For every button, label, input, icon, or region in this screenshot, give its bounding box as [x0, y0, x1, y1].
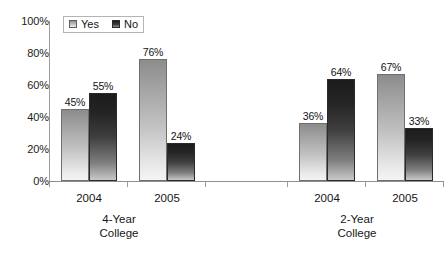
legend-swatch-yes-icon: [69, 20, 77, 28]
group-label-2year-line2: College: [322, 226, 392, 240]
bar-value-4year-2005-yes: 76%: [132, 47, 174, 58]
y-tick-label: 0%: [7, 176, 49, 187]
x-tick-mark: [49, 182, 50, 187]
y-tick-label: 60%: [7, 80, 49, 91]
group-label-4year-line2: College: [84, 226, 154, 240]
category-label-2year-2005: 2005: [383, 192, 427, 204]
y-tick-label: 40%: [7, 112, 49, 123]
bar-2year-2004-no[interactable]: [327, 79, 355, 181]
bar-value-2year-2005-no: 33%: [398, 116, 440, 127]
legend-label-no: No: [124, 19, 138, 30]
y-tick-0: 0%: [0, 176, 49, 187]
group-label-4year-line1: 4-Year: [84, 212, 154, 226]
y-tick-80: 80%: [0, 48, 49, 59]
legend-label-yes: Yes: [81, 19, 99, 30]
y-tick-label: 20%: [7, 144, 49, 155]
y-tick-20: 20%: [0, 144, 49, 155]
bar-2year-2004-yes[interactable]: [299, 123, 327, 181]
category-label-2year-2004: 2004: [305, 192, 349, 204]
y-tick-label: 100%: [7, 16, 49, 27]
bar-value-4year-2005-no: 24%: [160, 131, 202, 142]
legend-entry-no[interactable]: No: [112, 19, 138, 30]
category-label-4year-2005: 2005: [145, 192, 189, 204]
bar-chart: 100% 80% 60% 40% 20% 0%: [0, 0, 447, 254]
bar-value-2year-2005-yes: 67%: [370, 62, 412, 73]
x-axis-line: [49, 181, 444, 182]
y-tick-100: 100%: [0, 16, 49, 27]
bar-4year-2005-yes[interactable]: [139, 59, 167, 181]
legend-entry-yes[interactable]: Yes: [69, 19, 99, 30]
x-tick-mark: [443, 182, 444, 187]
bar-value-2year-2004-no: 64%: [320, 67, 362, 78]
bar-2year-2005-no[interactable]: [405, 128, 433, 181]
category-label-4year-2004: 2004: [67, 192, 111, 204]
bar-4year-2005-no[interactable]: [167, 143, 195, 181]
bar-2year-2005-yes[interactable]: [377, 74, 405, 181]
legend-swatch-no-icon: [112, 20, 120, 28]
bar-4year-2004-yes[interactable]: [61, 109, 89, 181]
plot-area: 45% 55% 76% 24% 36% 64% 67% 33%: [49, 21, 444, 181]
x-tick-mark: [205, 182, 206, 187]
legend: Yes No: [63, 16, 144, 33]
y-tick-label: 80%: [7, 48, 49, 59]
group-label-2year-line1: 2-Year: [322, 212, 392, 226]
bar-value-4year-2004-yes: 45%: [54, 97, 96, 108]
x-tick-mark: [287, 182, 288, 187]
y-tick-60: 60%: [0, 80, 49, 91]
x-tick-mark: [127, 182, 128, 187]
bar-value-4year-2004-no: 55%: [82, 81, 124, 92]
y-tick-40: 40%: [0, 112, 49, 123]
bar-value-2year-2004-yes: 36%: [292, 111, 334, 122]
x-tick-mark: [365, 182, 366, 187]
